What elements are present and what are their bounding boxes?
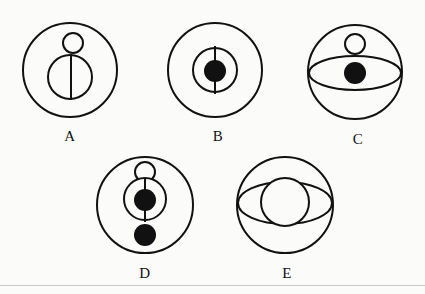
filled-dot-d-4 [134, 224, 156, 246]
figure-sheet: ABCDE [0, 0, 425, 294]
figure-item-b [168, 23, 262, 117]
figure-item-c [308, 25, 402, 119]
figure-item-d [97, 157, 193, 253]
filled-dot-d-3 [134, 189, 156, 211]
figure-item-a [23, 23, 117, 117]
figure-label-d: D [125, 265, 165, 282]
figure-label-a: A [50, 128, 90, 145]
figure-label-e: E [267, 265, 307, 282]
open-circle-c-0 [345, 34, 365, 54]
figure-item-e [237, 157, 333, 253]
bottom-divider-rule [0, 285, 425, 286]
filled-dot-c-2 [344, 62, 366, 84]
figure-label-c: C [338, 131, 378, 148]
open-circle-a-0 [63, 33, 83, 53]
figure-label-b: B [198, 128, 238, 145]
filled-dot-b-2 [204, 60, 226, 82]
open-circle-e-1 [261, 178, 309, 226]
